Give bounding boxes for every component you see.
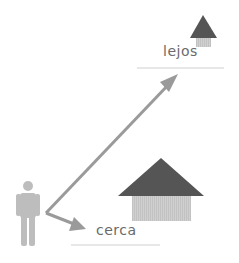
distance-diagram: lejos cerca bbox=[0, 0, 239, 263]
person-icon bbox=[16, 181, 40, 246]
near-arrow bbox=[46, 213, 86, 231]
near-label: cerca bbox=[96, 222, 137, 238]
far-label: lejos bbox=[163, 43, 198, 59]
near-house-icon bbox=[118, 158, 204, 221]
